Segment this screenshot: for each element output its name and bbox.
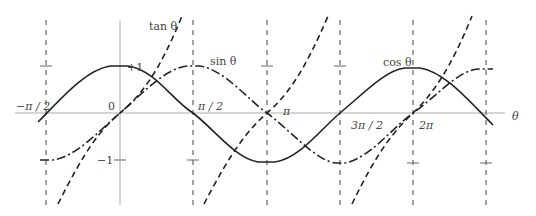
axis-theta-label: θ [512,111,519,122]
tick-pi: π [283,106,290,117]
tick-marks [40,66,492,163]
sin-label: sin θ [210,56,236,67]
tick-neg-pi-half: −π / 2 [16,101,50,112]
tick-zero: 0 [108,101,115,112]
tick-two-pi: 2π [419,120,433,131]
tick-minus-one: −1 [97,155,113,166]
tan-label: tan θ [149,21,177,32]
tick-three-pi-half: 3π / 2 [351,120,383,131]
tick-plus-one: +1 [127,62,143,73]
trig-diagram [0,0,536,216]
cos-curve [38,66,493,162]
tick-pi-half: π / 2 [198,101,223,112]
cos-label: cos θ [383,57,412,68]
